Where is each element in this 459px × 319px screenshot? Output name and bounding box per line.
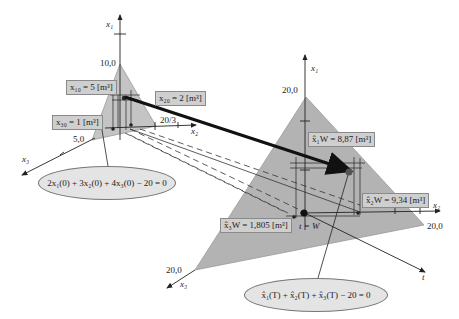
label-x1W: x̂₁W = 8,87 [m³] [308,132,375,147]
left-tick-x1: 10,0 [100,59,116,68]
right-axis-x2-label: x₂ [433,201,440,210]
right-tick-x3: 20,0 [166,266,182,275]
label-tW: t = W [299,222,320,231]
right-simplex [195,97,424,270]
label-x2W: x̂₂W = 9,34 [m³] [362,193,429,208]
constraint-ellipse-final: x̂₁(T) + x̂₂(T) + x̂₃(T) − 20 = 0 [244,278,388,312]
label-x10: x₁₀ = 5 [m³] [66,80,117,95]
right-tick-x1: 20,0 [282,86,298,95]
label-x20: x₂₀ = 2 [m³] [155,91,206,106]
constraint-ellipse-initial: 2x₁(0) + 3x₂(0) + 4x₃(0) − 20 = 0 [38,166,176,200]
right-axis-x1-label: x₁ [311,64,318,73]
left-axis-x2-label: x₂ [191,127,198,136]
left-tick-x2: 20/3 [160,116,176,125]
left-axis-x1-label: x₁ [106,20,113,29]
left-tick-x3: 5,0 [73,135,84,144]
right-axis-x3-label: x₃ [180,280,187,289]
right-tick-x2: 20,0 [427,222,443,231]
diagram-canvas [0,0,459,319]
label-x3W: x̂₃W = 1,805 [m³] [220,218,292,233]
left-axis-x3-label: x₃ [22,155,29,164]
label-x30: x₃₀ = 1 [m³] [52,115,103,130]
right-axis-t-label: t [422,273,425,282]
